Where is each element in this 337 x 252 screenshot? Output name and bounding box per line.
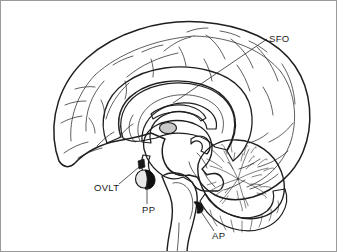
brain-diagram: SFO OVLT PP AP [1,1,337,252]
figure-frame: SFO OVLT PP AP [0,0,337,252]
label-pp: PP [142,204,155,215]
massa-intermedia [160,123,177,134]
label-ap: AP [212,230,225,241]
ovlt-structure [138,159,145,169]
label-ovlt: OVLT [94,182,119,193]
label-sfo: SFO [269,33,289,44]
